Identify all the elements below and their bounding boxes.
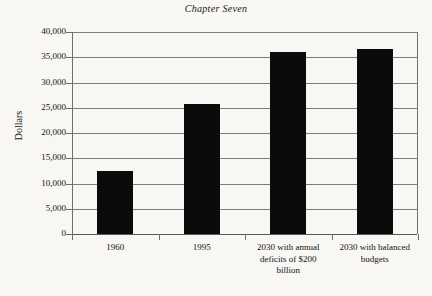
y-axis-tick-label: 0 (14, 229, 66, 238)
y-axis-tickmark (66, 209, 72, 210)
x-axis-label-line: 1960 (72, 242, 159, 254)
y-axis-tick-label: 30,000 (14, 78, 66, 87)
figure-page: Chapter Seven Dollars 196019952030 with … (0, 0, 432, 296)
bar-slot (72, 32, 159, 234)
x-axis-label-line: billion (245, 265, 332, 277)
y-axis-tickmark (66, 32, 72, 33)
x-axis-tickmark (418, 234, 419, 240)
y-axis-tickmark (66, 133, 72, 134)
bar-chart-figure: Dollars 196019952030 with annualdeficits… (0, 24, 432, 296)
bar-slot (245, 32, 332, 234)
x-axis-label-line: budgets (332, 254, 419, 266)
bar[interactable] (270, 52, 306, 234)
y-axis-tick-label: 15,000 (14, 153, 66, 162)
y-axis-tickmark (66, 234, 72, 235)
x-axis-tickmarks (72, 234, 418, 241)
page-running-head: Chapter Seven (0, 3, 432, 14)
y-axis-tickmark (66, 108, 72, 109)
x-axis-label-line: 1995 (159, 242, 246, 254)
x-axis-tickmark (159, 234, 160, 240)
x-axis-tickmark (72, 234, 73, 240)
x-axis-category-label: 2030 with annualdeficits of $200billion (245, 242, 332, 277)
x-axis-category-label: 2030 with balancedbudgets (332, 242, 419, 265)
y-axis-tickmark (66, 57, 72, 58)
y-axis-tick-label: 5,000 (14, 204, 66, 213)
x-axis-tickmark (332, 234, 333, 240)
y-axis-tick-label: 10,000 (14, 179, 66, 188)
y-axis-tick-label: 25,000 (14, 103, 66, 112)
x-axis-category-label: 1960 (72, 242, 159, 254)
x-axis-label-line: 2030 with annual (245, 242, 332, 254)
bar[interactable] (97, 171, 133, 234)
y-axis-tickmark (66, 184, 72, 185)
x-axis-label-line: deficits of $200 (245, 254, 332, 266)
x-axis-label-line: 2030 with balanced (332, 242, 419, 254)
y-axis-tick-label: 40,000 (14, 27, 66, 36)
y-axis-tick-label: 20,000 (14, 128, 66, 137)
bar[interactable] (184, 104, 220, 234)
x-axis-category-label: 1995 (159, 242, 246, 254)
y-axis-tickmark (66, 83, 72, 84)
bar-series (72, 32, 418, 234)
bar-slot (159, 32, 246, 234)
x-axis-labels: 196019952030 with annualdeficits of $200… (72, 242, 418, 296)
x-axis-tickmark (245, 234, 246, 240)
y-axis-tickmark (66, 158, 72, 159)
bar[interactable] (357, 49, 393, 234)
y-axis-tick-label: 35,000 (14, 52, 66, 61)
bar-slot (332, 32, 419, 234)
